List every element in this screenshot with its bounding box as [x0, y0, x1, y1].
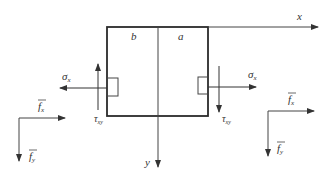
right-sigma-label: σx [248, 68, 257, 82]
x-axis-label: x [296, 10, 302, 22]
left-tau-label: τxy [94, 113, 103, 125]
right-face-element [198, 77, 208, 94]
left-fy-label: fy [29, 150, 36, 164]
left-face-element [107, 78, 118, 96]
right-tau-label: τxy [222, 113, 231, 125]
right-fy-label: fy [277, 142, 284, 156]
region-a-label: a [178, 30, 184, 42]
left-fx-label: fx [38, 100, 45, 114]
left-sigma-label: σx [62, 70, 71, 84]
y-axis-label: y [144, 156, 150, 168]
stress-diagram: x y b a σx τxy σx τxy fx fy fx fy [0, 0, 329, 179]
region-b-label: b [131, 30, 137, 42]
right-fx-label: fx [288, 93, 295, 107]
